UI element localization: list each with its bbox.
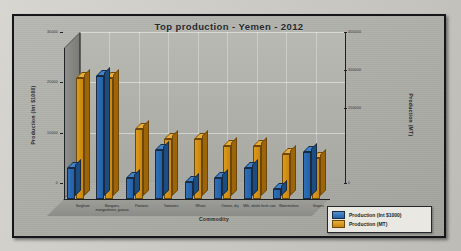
- y-tick-mark-right: [344, 108, 347, 109]
- y-tick-label-right: 400000: [348, 30, 376, 34]
- bar-front: [303, 152, 311, 199]
- bar-production-int: [155, 150, 163, 199]
- legend-item[interactable]: Production (MT): [332, 220, 427, 228]
- bar-side: [311, 143, 317, 196]
- y-tick-label-left: 0: [32, 181, 58, 185]
- gridline: [80, 82, 345, 83]
- bar-production-int: [214, 178, 222, 199]
- bar-front: [244, 168, 252, 199]
- photo-background: Top production - Yemen - 2012 3000020000…: [0, 0, 461, 251]
- bar-side: [75, 159, 81, 196]
- bar-production-int: [303, 152, 311, 199]
- legend-item[interactable]: Production (Int $1000): [332, 211, 427, 219]
- bar-front: [96, 76, 104, 199]
- bar-side: [113, 69, 119, 196]
- y-tick-mark-left: [60, 183, 63, 184]
- bar-production-int: [273, 189, 281, 199]
- y-tick-label-right: 200000: [348, 106, 376, 110]
- bar-side: [104, 67, 110, 196]
- y-axis-title-left: Production (Int $1000): [30, 70, 36, 160]
- bar-side: [143, 120, 149, 196]
- bar-front: [273, 189, 281, 199]
- bar-side: [290, 145, 296, 196]
- chart-legend[interactable]: Production (Int $1000)Production (MT): [327, 206, 432, 233]
- y-axis-title-right: Production (MT): [408, 70, 414, 160]
- legend-swatch: [332, 220, 345, 228]
- bar-front: [155, 150, 163, 199]
- bar-side: [84, 69, 90, 196]
- bar-front: [126, 178, 134, 199]
- y-tick-mark-right: [344, 183, 347, 184]
- y-tick-label-right: 300000: [348, 68, 376, 72]
- gridline: [80, 133, 345, 134]
- bar-side: [252, 159, 258, 196]
- y-tick-mark-left: [60, 82, 63, 83]
- chart-panel: Top production - Yemen - 2012 3000020000…: [12, 14, 446, 238]
- bar-production-int: [185, 182, 193, 199]
- y-tick-label-right: 0: [348, 181, 376, 185]
- gridline: [80, 32, 345, 33]
- bar-side: [261, 137, 267, 196]
- legend-swatch: [332, 211, 345, 219]
- x-axis-title: Commodity: [84, 216, 344, 222]
- bar-production-int: [244, 168, 252, 199]
- bar-side: [202, 130, 208, 196]
- bar-production-int: [126, 178, 134, 199]
- bar-front: [67, 168, 75, 199]
- bar-production-int: [96, 76, 104, 199]
- bar-side: [172, 130, 178, 196]
- y-tick-mark-right: [344, 32, 347, 33]
- x-axis-line: [64, 199, 330, 200]
- bar-front: [185, 182, 193, 199]
- y-tick-mark-left: [60, 133, 63, 134]
- y-tick-mark-right: [344, 70, 347, 71]
- bar-side: [320, 149, 326, 196]
- bar-side: [163, 141, 169, 196]
- legend-label: Production (Int $1000): [349, 212, 402, 218]
- y-axis-line: [64, 48, 65, 200]
- plot-area: 3000020000100000 4000003000002000000 Sor…: [14, 16, 440, 232]
- bar-front: [214, 178, 222, 199]
- y-tick-label-left: 30000: [32, 30, 58, 34]
- y-tick-mark-left: [60, 32, 63, 33]
- legend-label: Production (MT): [349, 221, 387, 227]
- bar-production-int: [67, 168, 75, 199]
- bar-side: [231, 137, 237, 196]
